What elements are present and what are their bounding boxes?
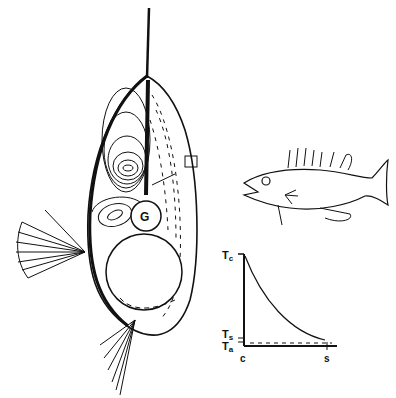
body-cavity-circle: [106, 234, 182, 310]
pectoral-fin-small: [285, 190, 298, 204]
fish-cross-section: [16, 8, 197, 395]
pectoral-fin: [16, 210, 85, 278]
dorsal-fin: [288, 148, 352, 170]
label-x-s: s: [324, 353, 330, 364]
temperature-graph: [238, 254, 337, 350]
g-label: G: [140, 210, 149, 224]
label-x-c: c: [240, 353, 246, 364]
figure-canvas: G Tc Ts Ta c s: [0, 0, 396, 398]
decay-curve: [245, 256, 325, 340]
fish-side-view: [244, 148, 388, 225]
label-ta: Ta: [222, 340, 234, 354]
label-tc: Tc: [222, 249, 234, 263]
pelvic-fin: [100, 320, 135, 395]
anal-fin: [320, 208, 351, 221]
fish-eye: [262, 177, 270, 185]
muscle-contours-upper: [102, 88, 150, 192]
pelvic-fin-small: [278, 205, 282, 225]
dorsal-spine: [147, 8, 149, 78]
